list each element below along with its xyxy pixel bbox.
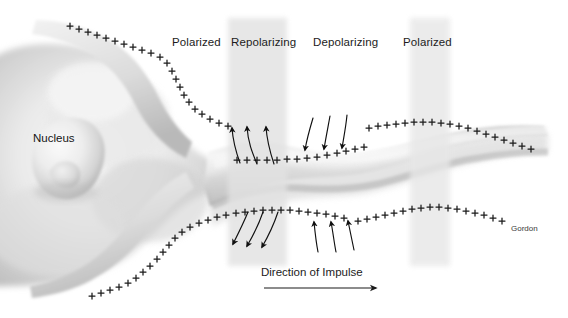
label-depolarizing: Depolarizing [313,36,378,48]
ion-arrow-down-3 [342,115,347,148]
neuron-impulse-diagram: Polarized Repolarizing Depolarizing Pola… [0,0,568,318]
band-polarized-right [410,18,450,266]
label-polarized-left: Polarized [172,36,221,48]
ion-arrow-down-1 [305,118,313,150]
label-nucleus: Nucleus [33,132,75,144]
ion-arrow-down-2 [324,116,330,149]
ion-arrow-up-b2 [331,222,336,252]
arrows-depolarizing-bottom [314,221,354,252]
label-repolarizing: Repolarizing [231,36,296,48]
artist-signature: Gordon [511,224,538,233]
ion-arrow-up-b1 [314,222,318,252]
ion-arrow-up-b3 [348,221,354,250]
label-direction-of-impulse: Direction of Impulse [261,266,363,278]
nucleus-group [32,118,105,202]
region-bands [228,18,450,266]
label-polarized-right: Polarized [403,36,452,48]
arrows-depolarizing-top [305,115,347,150]
nucleus-rim-shadow [34,182,98,202]
band-repolarizing [228,18,287,266]
